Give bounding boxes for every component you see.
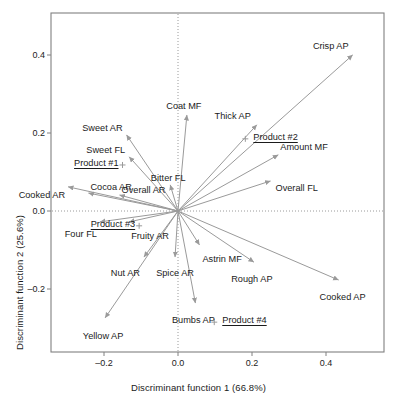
- variable-label: Fruity AR: [131, 232, 169, 242]
- variable-label: Sweet AR: [0, 124, 123, 134]
- product-plus-marker: [242, 136, 248, 142]
- product-name-text: Product #4: [222, 315, 266, 325]
- product-plus-marker: [120, 162, 126, 168]
- product-name-text: Product #3: [91, 219, 135, 229]
- variable-label: Thick AP: [0, 112, 251, 122]
- variable-label: Bitter FL: [151, 174, 186, 184]
- variable-label: Overall AR: [122, 186, 166, 196]
- variable-label: Astrin MF: [202, 255, 241, 265]
- x-tick-label: –0.2: [95, 358, 113, 368]
- x-tick-label: 0.2: [246, 358, 259, 368]
- plot-canvas: [0, 0, 397, 406]
- product-name-text: Product #1: [74, 158, 118, 168]
- loading-vector-arrow: [178, 211, 339, 280]
- product-label: Product #1: [0, 159, 119, 169]
- variable-label: Overall FL: [276, 184, 318, 194]
- variable-label: Spice AR: [156, 269, 194, 279]
- product-label: Product #2: [253, 133, 297, 143]
- product-name-text: Product #2: [253, 132, 297, 142]
- variable-label: Coat MF: [166, 102, 201, 112]
- discriminant-biplot-figure: –0.20.00.20.40.40.20.0–0.2 Crisp APCoat …: [0, 0, 397, 406]
- x-tick-label: 0.4: [320, 358, 333, 368]
- y-axis-title: Discriminant function 2 (25.6%): [14, 215, 25, 350]
- variable-label: Yellow AP: [83, 332, 124, 342]
- product-label: Product #4: [222, 316, 266, 326]
- variable-label: Sweet FL: [0, 146, 125, 156]
- loading-vector-arrow: [175, 211, 178, 257]
- variable-label: Rough AP: [231, 275, 272, 285]
- variable-label: Cooked AP: [320, 293, 366, 303]
- product-plus-marker: [136, 223, 142, 229]
- x-tick-label: 0.0: [172, 358, 185, 368]
- loading-vector-arrow: [178, 115, 187, 211]
- variable-label: Amount MF: [280, 143, 327, 153]
- x-axis-title: Discriminant function 1 (66.8%): [0, 382, 397, 393]
- variable-label: Cooked AR: [0, 191, 65, 201]
- variable-label: Crisp AP: [0, 42, 349, 52]
- variable-label: Bumbs AP: [172, 316, 215, 326]
